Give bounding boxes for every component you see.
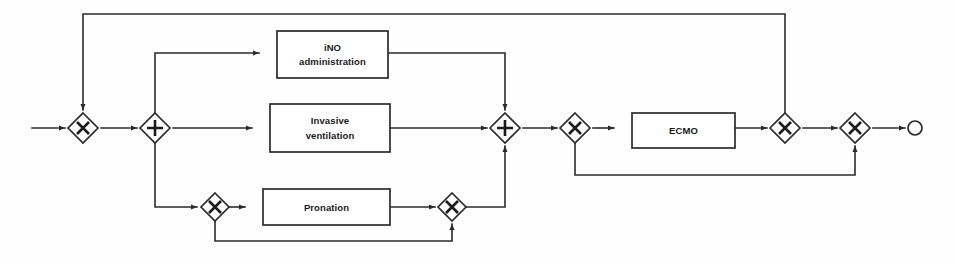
gateway-ecmo-split[interactable] [560, 113, 590, 143]
task-invasive-ventilation-box[interactable] [270, 104, 390, 152]
flow-split-to-ino [155, 53, 259, 113]
task-iNO[interactable]: iNO administration [277, 31, 388, 78]
flow-pronation-merge-to-join [466, 146, 505, 207]
gateway-final-merge[interactable] [840, 113, 870, 143]
task-iNO-label-line2: administration [299, 56, 366, 67]
task-invasive-ventilation-label-line2: ventilation [306, 130, 355, 141]
flow-diagram-svg: iNO administration Invasive ventilation … [0, 0, 954, 263]
task-ecmo[interactable]: ECMO [632, 113, 735, 148]
gateway-pronation-merge[interactable] [438, 193, 466, 221]
flow-ino-to-join [388, 53, 505, 110]
end-event-circle[interactable] [908, 121, 922, 135]
task-pronation[interactable]: Pronation [263, 189, 390, 225]
gateway-entry-merge[interactable] [68, 113, 98, 143]
gateway-parallel-join[interactable] [490, 113, 520, 143]
task-invasive-ventilation-label-line1: Invasive [311, 115, 349, 126]
gateway-parallel-split[interactable] [140, 113, 170, 143]
end-event[interactable] [908, 121, 922, 135]
gateway-pronation-split[interactable] [201, 193, 229, 221]
process-diagram-canvas: iNO administration Invasive ventilation … [0, 0, 954, 263]
task-invasive-ventilation[interactable]: Invasive ventilation [270, 104, 390, 152]
task-pronation-label: Pronation [304, 202, 349, 213]
task-iNO-box[interactable] [277, 31, 388, 78]
task-ecmo-label: ECMO [669, 125, 698, 136]
gateway-ecmo-merge[interactable] [770, 113, 800, 143]
flow-split-to-pronation-gw [155, 143, 197, 207]
flow-global-feedback [83, 14, 785, 113]
task-iNO-label-line1: iNO [324, 42, 341, 53]
